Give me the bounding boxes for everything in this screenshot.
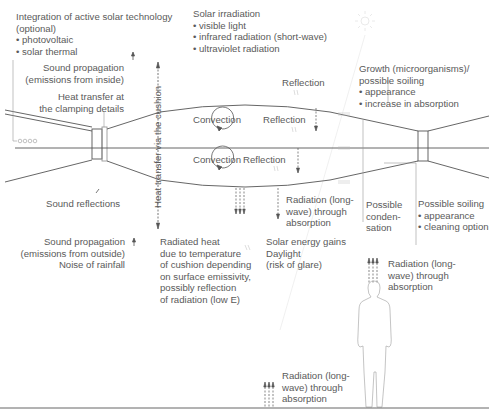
label-sound-reflections: Sound reflections <box>46 198 120 210</box>
label-active-solar: Integration of active solar technology (… <box>16 11 172 57</box>
label-heat-clamping: Heat transfer at the clamping details <box>39 91 124 114</box>
label-heat-cushion: Heat transfer via the cushion <box>152 86 163 208</box>
label-radiation-absorption-right: Radiation (long- wave) through absorptio… <box>388 258 456 293</box>
label-sound-outside: Sound propagation (emissions from outsid… <box>21 236 126 271</box>
label-radiation-absorption-floor: Radiation (long- wave) through absorptio… <box>282 370 350 405</box>
label-reflection-mid: Reflection <box>263 114 306 126</box>
radiation-up-arrows-right <box>368 258 378 284</box>
label-growth: Growth (microorganisms)/ possible soilin… <box>359 63 469 109</box>
label-radiated-heat: Radiated heat due to temperature of cush… <box>160 236 251 306</box>
label-radiation-absorption-mid: Radiation (long- wave) through absorptio… <box>286 194 354 229</box>
label-reflection-top: Reflection <box>282 77 325 89</box>
label-solar-gains: Solar energy gains Daylight (risk of gla… <box>266 236 346 271</box>
sun-icon <box>355 11 375 31</box>
cushion-geometry <box>5 105 489 187</box>
radiation-up-arrows-floor <box>264 382 274 407</box>
label-convection-low: Convection <box>193 154 241 166</box>
person-silhouette <box>358 281 392 407</box>
label-reflection-low: Reflection <box>243 154 286 166</box>
label-soiling: Possible soiling • appearance • cleaning… <box>418 198 489 233</box>
radiated-heat-arrows <box>235 188 245 214</box>
label-solar-irradiation: Solar irradiation • visible light • infr… <box>193 8 327 54</box>
label-sound-inside: Sound propagation (emissions from inside… <box>25 62 124 85</box>
label-condensation: Possible conden- sation <box>366 199 402 234</box>
label-convection-top: Convection <box>193 114 241 126</box>
